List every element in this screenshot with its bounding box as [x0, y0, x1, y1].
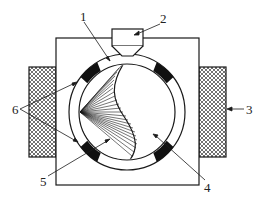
right-hatched-block: [199, 67, 226, 157]
label-5: 5: [40, 174, 47, 189]
diagram-canvas: 1 2 3 4 5 6: [0, 0, 261, 198]
left-hatched-block: [29, 67, 56, 157]
label-4: 4: [204, 180, 211, 195]
label-3: 3: [246, 102, 253, 117]
label-1: 1: [80, 9, 87, 24]
label-2: 2: [160, 11, 167, 26]
label-6: 6: [12, 102, 19, 117]
